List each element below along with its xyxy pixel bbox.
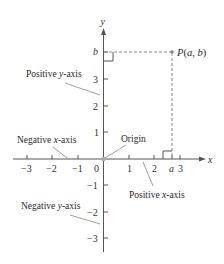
y-axis-arrow-icon xyxy=(101,28,106,35)
y-ticks xyxy=(104,52,109,238)
x-axis-label: x xyxy=(207,154,213,165)
x-tick-label: −2 xyxy=(46,163,57,174)
y-tick-label: 3 xyxy=(93,74,98,85)
right-angle-mark-y xyxy=(104,52,114,61)
x-tick-label: 3 xyxy=(178,163,183,174)
x-axis-arrow-icon xyxy=(199,157,206,162)
y-tick-label: 2 xyxy=(93,101,98,112)
x-tick-label: 2 xyxy=(152,163,157,174)
negative-y-axis-label: Negative y-axis xyxy=(21,201,81,211)
x-tick-label: 0 xyxy=(94,163,99,174)
positive-y-axis-label: Positive y-axis xyxy=(26,69,82,79)
y-tick-label: −3 xyxy=(87,233,98,244)
x-tick-label-a: a xyxy=(169,163,174,174)
y-tick-label-b: b xyxy=(93,46,98,57)
origin-label: Origin xyxy=(121,134,146,144)
point-p xyxy=(170,50,174,54)
y-tick-label: −1 xyxy=(87,180,98,191)
y-tick-label: 1 xyxy=(94,127,99,138)
negative-x-axis-label: Negative x-axis xyxy=(17,135,77,145)
positive-x-axis-label: Positive x-axis xyxy=(129,190,185,200)
x-tick-label: −3 xyxy=(21,163,32,174)
x-tick-label: −1 xyxy=(72,163,83,174)
y-axis-label: y xyxy=(100,16,106,27)
origin-dot xyxy=(101,157,105,161)
point-p-label: P(a, b) xyxy=(176,47,207,59)
coordinate-plane: x y −3 −2 −1 0 1 2 a 3 b 3 2 1 −1 −2 −3 xyxy=(0,0,224,264)
right-angle-mark-x xyxy=(163,151,172,159)
x-tick-label: 1 xyxy=(127,163,132,174)
y-tick-label: −2 xyxy=(87,207,98,218)
